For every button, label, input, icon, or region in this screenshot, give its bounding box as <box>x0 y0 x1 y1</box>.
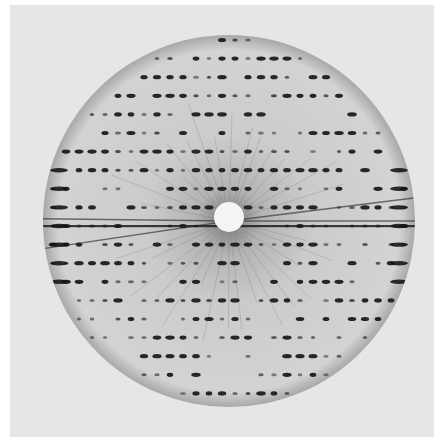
beam-stop <box>214 202 244 232</box>
diffraction-pattern <box>0 0 440 442</box>
diffraction-image-frame: Greyscale X-ray diffraction photograph s… <box>0 0 440 442</box>
